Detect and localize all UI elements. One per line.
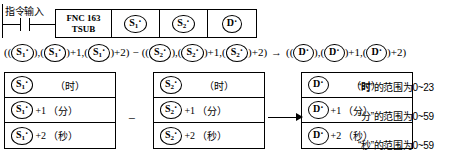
formula-plus-6: )+2) (387, 46, 406, 58)
subtract-operator: − (128, 112, 135, 125)
formula-sep-1: ),( (34, 46, 44, 58)
formula-open-1: (( (4, 46, 11, 58)
formula-pill-s2-c: S2· (226, 44, 248, 62)
operand-pill-source-2: S2· (172, 15, 194, 33)
formula-pill-s1-a: S1· (11, 44, 33, 62)
table-row: S2·+2（秒） (154, 123, 264, 148)
operand-pill-source-1: S1· (124, 15, 146, 33)
operand-pill-source-1: S1· (11, 76, 33, 94)
table-row: S2·（时） (154, 73, 264, 98)
row-offset: +2 (329, 130, 342, 141)
formula-plus-1: )+1,( (66, 46, 88, 58)
table-row: S1·+1（分） (5, 98, 115, 123)
source-1-table: S1·（时） S1·+1（分） S1·+2（秒） (4, 72, 116, 149)
formula-pill-s1-b: S1· (44, 44, 66, 62)
instruction-mnemonic-cell: FNC 163 TSUB (56, 10, 112, 37)
formula-plus-5: )+1,( (345, 46, 367, 58)
contact-bar-left (20, 18, 21, 31)
operation-formula: ((S1·),(S1·)+1,(S1·)+2)−((S2·),(S2·)+1,(… (4, 44, 406, 62)
operand-pill-source-2: S2· (160, 127, 182, 145)
formula-plus-4: )+2) (248, 46, 267, 58)
row-offset: +1 (329, 105, 342, 116)
operand-cell-source-1: S1· (112, 10, 160, 37)
row-unit: （时） (35, 78, 85, 93)
row-offset: +1 (182, 105, 195, 116)
formula-pill-d-a: D· (293, 44, 314, 62)
row-offset: +1 (33, 105, 46, 116)
row-offset: +2 (33, 130, 46, 141)
operand-cell-destination: D· (208, 10, 256, 37)
formula-minus-operator: − (129, 46, 141, 58)
formula-pill-s2-b: S2· (181, 44, 203, 62)
operand-pill-destination: D· (222, 15, 243, 33)
command-input-label: 指令输入 (5, 3, 43, 18)
ladder-rung: 指令输入 FNC 163 TSUB S1· S2· D· (2, 4, 206, 38)
range-note-hour: “时”的范围为0~23 (358, 79, 434, 94)
fnc-number: FNC 163 (66, 13, 100, 24)
fnc-mnemonic: TSUB (72, 24, 96, 35)
operand-pill-source-2: S2· (160, 101, 182, 119)
range-note-second: “秒”的范围为0~59 (358, 137, 434, 152)
row-unit: （分） (46, 103, 78, 118)
formula-plus-3: )+1,( (204, 46, 226, 58)
formula-sep-3: ),( (314, 46, 324, 58)
formula-sep-2: ),( (171, 46, 181, 58)
row-unit: （秒） (46, 128, 78, 143)
range-note-minute: “分”的范围为0~59 (358, 108, 434, 123)
table-row: S2·+1（分） (154, 98, 264, 123)
row-offset: +2 (182, 130, 195, 141)
rung-wire-left (2, 24, 20, 25)
formula-open-3: (( (286, 46, 293, 58)
rung-wire-right (30, 24, 55, 25)
operand-pill-source-2: S2· (160, 76, 182, 94)
table-row: S1·+2（秒） (5, 123, 115, 148)
instruction-block: FNC 163 TSUB S1· S2· D· (55, 9, 257, 38)
formula-pill-s2-a: S2· (149, 44, 171, 62)
operand-pill-destination: D· (308, 76, 329, 94)
table-row: S1·（时） (5, 73, 115, 98)
left-power-rail (2, 4, 3, 38)
arrow-right-icon (268, 117, 298, 118)
row-unit: （时） (184, 78, 234, 93)
formula-plus-2: )+2) (110, 46, 129, 58)
operand-pill-source-1: S1· (11, 127, 33, 145)
operand-pill-destination: D· (308, 101, 329, 119)
formula-arrow-icon: → (267, 46, 286, 58)
row-unit: （秒） (195, 128, 227, 143)
instruction-diagram: 指令输入 FNC 163 TSUB S1· S2· D· ((S1·),(S1·… (0, 0, 461, 157)
source-2-table: S2·（时） S2·+1（分） S2·+2（秒） (153, 72, 265, 149)
formula-pill-d-c: D· (366, 44, 387, 62)
operand-pill-source-1: S1· (11, 101, 33, 119)
row-unit: （分） (195, 103, 227, 118)
formula-open-2: (( (142, 46, 149, 58)
formula-pill-s1-c: S1· (88, 44, 110, 62)
formula-pill-d-b: D· (324, 44, 345, 62)
operand-pill-destination: D· (308, 127, 329, 145)
operand-cell-source-2: S2· (160, 10, 208, 37)
